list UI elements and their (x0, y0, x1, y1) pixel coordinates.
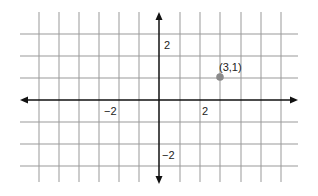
arrow-right-icon (290, 97, 298, 104)
plotted-point (216, 73, 224, 81)
arrow-left-icon (20, 97, 28, 104)
x-axis-label-neg2: −2 (104, 106, 117, 117)
point-label: (3,1) (219, 62, 242, 73)
arrow-down-icon (156, 176, 163, 184)
grid-canvas (0, 0, 318, 196)
coordinate-plane: −2 2 2 −2 (3,1) (0, 0, 318, 196)
x-axis-label-2: 2 (202, 106, 208, 117)
y-axis-label-neg2: −2 (162, 150, 175, 161)
y-axis-label-2: 2 (164, 40, 170, 51)
arrow-up-icon (156, 12, 163, 20)
